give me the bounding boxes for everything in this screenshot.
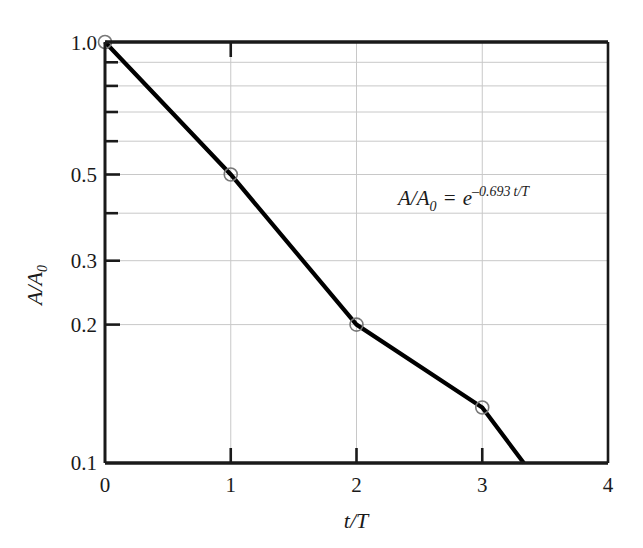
x-tick-label-1: 1: [226, 473, 237, 497]
y-tick-label-0.3: 0.3: [71, 249, 97, 273]
eq-exponent-T: T: [521, 184, 530, 199]
x-tick-label-2: 2: [351, 473, 362, 497]
svg-text:t/T: t/T: [344, 508, 370, 533]
x-title-T: T: [356, 508, 370, 533]
y-tick-label-0.1: 0.1: [71, 451, 97, 475]
x-axis-title: t/T: [344, 508, 370, 533]
y-title-subscript: 0: [35, 265, 50, 272]
y-title-denominator: A: [22, 271, 47, 287]
x-tick-label-4: 4: [603, 473, 614, 497]
semilog-decay-chart: 1.0 0.5 0.3 0.2 0.1 0 1 2 3 4 A/A0: [0, 0, 643, 548]
eq-e: e: [463, 186, 472, 210]
x-tick-label-0: 0: [100, 473, 111, 497]
eq-lhs-a: A: [396, 186, 411, 210]
y-title-numerator: A: [22, 291, 47, 307]
y-tick-label-0.5: 0.5: [71, 163, 97, 187]
eq-exponent-coefficient: –0.693: [471, 184, 511, 199]
eq-lhs-a2: A: [415, 186, 430, 210]
x-tick-label-3: 3: [477, 473, 488, 497]
chart-svg: 1.0 0.5 0.3 0.2 0.1 0 1 2 3 4 A/A0: [0, 0, 643, 548]
y-tick-label-1.0: 1.0: [71, 31, 97, 55]
figure-page: 1.0 0.5 0.3 0.2 0.1 0 1 2 3 4 A/A0: [0, 0, 643, 548]
y-tick-label-0.2: 0.2: [71, 313, 97, 337]
eq-lhs-subscript: 0: [430, 199, 437, 214]
eq-equals: =: [443, 186, 457, 210]
